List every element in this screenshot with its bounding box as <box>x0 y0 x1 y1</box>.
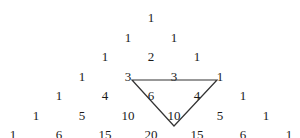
highlight-triangle-overlay <box>0 0 300 138</box>
hockey-stick-triangle <box>132 80 217 126</box>
